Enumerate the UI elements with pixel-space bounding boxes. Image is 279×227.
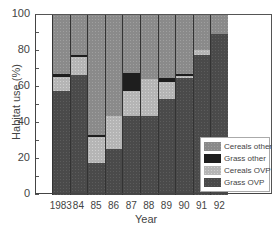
y-tick-label: 40 — [8, 115, 30, 127]
legend-label: Grass OVP — [224, 178, 264, 187]
y-tick-label: 100 — [8, 7, 30, 19]
cereals-ovp-swatch — [204, 166, 221, 175]
y-tick-label: 60 — [8, 79, 30, 91]
x-tick-label: 92 — [207, 200, 231, 211]
legend-item-cereals-other: Cereals other — [204, 141, 272, 152]
y-axis-label: Habitat use (%) — [10, 62, 22, 142]
legend-label: Grass other — [224, 154, 266, 163]
y-tick-label: 0 — [8, 187, 30, 199]
legend: Cereals other Grass other Cereals OVP Gr… — [200, 137, 270, 192]
legend-item-cereals-ovp: Cereals OVP — [204, 165, 271, 176]
legend-item-grass-ovp: Grass OVP — [204, 177, 264, 188]
y-tick-label: 80 — [8, 43, 30, 55]
legend-item-grass-other: Grass other — [204, 153, 266, 164]
legend-label: Cereals other — [224, 142, 272, 151]
legend-label: Cereals OVP — [224, 166, 271, 175]
cereals-other-swatch — [204, 142, 221, 151]
grass-ovp-swatch — [204, 178, 221, 187]
y-tick-label: 20 — [8, 151, 30, 163]
grass-other-swatch — [204, 154, 221, 163]
x-axis-label: Year — [135, 213, 157, 225]
